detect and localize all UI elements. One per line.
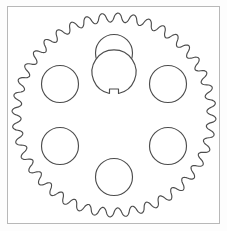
hole-lower-left [42, 128, 79, 165]
drawing-page [0, 0, 227, 231]
hole-upper-right [150, 66, 187, 103]
hole-lower-right [150, 128, 187, 165]
center-bore [92, 50, 136, 94]
gear-drawing-canvas [0, 0, 227, 231]
center-bore-with-keyway [92, 50, 136, 94]
hole-upper-left [42, 66, 79, 103]
hole-bottom [96, 159, 133, 196]
